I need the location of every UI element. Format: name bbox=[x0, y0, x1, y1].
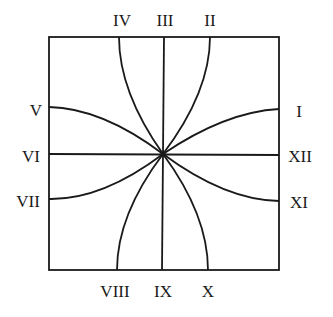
label-ii: II bbox=[204, 11, 216, 30]
sundial-diagram: IV III II V VI VII I XII XI VIII IX X bbox=[0, 0, 333, 317]
label-v: V bbox=[30, 101, 43, 120]
label-ix: IX bbox=[154, 282, 172, 301]
hour-line-xi bbox=[163, 154, 279, 201]
label-x: X bbox=[202, 282, 214, 301]
label-i: I bbox=[296, 102, 302, 121]
hour-line-viii bbox=[117, 154, 163, 270]
label-viii: VIII bbox=[100, 282, 130, 301]
hour-line-i bbox=[163, 109, 279, 154]
hour-line-x bbox=[163, 154, 208, 270]
label-vii: VII bbox=[16, 192, 40, 211]
label-vi: VI bbox=[22, 147, 40, 166]
label-xii: XII bbox=[288, 147, 312, 166]
label-iv: IV bbox=[113, 11, 132, 30]
label-iii: III bbox=[157, 11, 174, 30]
hour-line-vii bbox=[49, 154, 163, 199]
label-xi: XI bbox=[290, 193, 308, 212]
hour-line-v bbox=[49, 107, 163, 154]
hour-line-iv bbox=[119, 37, 163, 154]
hour-line-ii bbox=[163, 37, 210, 154]
gnomon-center bbox=[160, 151, 165, 156]
